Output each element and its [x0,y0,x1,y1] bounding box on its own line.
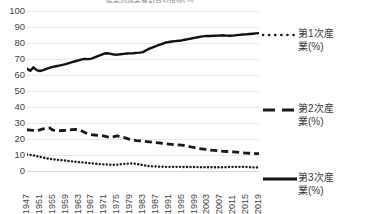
x-axis-tick-label: 1951 [35,194,44,214]
x-axis-tick-label: 1963 [74,194,83,214]
x-axis-tick-label: 1967 [86,194,95,214]
y-axis-tick-label: 20 [1,134,25,144]
x-axis: 1947195119551959196319671971197519791983… [27,173,259,214]
legend-label-tertiary-industry: 第3次産業(%) [298,172,362,197]
y-axis-tick-label: 10 [1,150,25,160]
y-axis-tick-label: 50 [1,86,25,96]
series-layer [27,11,259,171]
legend-label-primary-industry: 第1次産業(%) [298,28,362,53]
y-axis: 1009080706050403020100 [0,11,25,171]
y-axis-tick-label: 100 [1,6,25,16]
series-line-3 [27,33,259,71]
dashed-line-icon [262,104,298,116]
x-axis-tick-label: 1955 [48,194,57,214]
x-axis-tick-label: 2011 [228,195,237,214]
y-axis-tick-label: 40 [1,102,25,112]
x-axis-tick-label: 2015 [241,194,250,214]
series-line-1 [27,155,259,168]
legend-item-secondary-industry[interactable]: 第2次産業(%) [262,103,367,128]
x-axis-tick-label: 1971 [99,194,108,214]
y-axis-tick-label: 90 [1,22,25,32]
x-axis-tick-label: 1991 [164,194,173,214]
x-axis-line [27,171,259,172]
x-axis-tick-label: 1959 [61,194,70,214]
legend-item-tertiary-industry[interactable]: 第3次産業(%) [262,172,367,197]
series-line-2 [27,128,259,154]
chart-title: 産業別就業者割合の推移(%) [50,0,250,3]
legend-item-primary-industry[interactable]: 第1次産業(%) [262,28,367,53]
x-axis-tick-label: 1987 [151,194,160,214]
y-axis-tick-label: 0 [1,166,25,176]
dotted-line-icon [262,29,298,41]
y-axis-tick-label: 30 [1,118,25,128]
x-axis-tick-label: 1983 [138,194,147,214]
y-axis-tick-label: 80 [1,38,25,48]
x-axis-tick-label: 1975 [112,194,121,214]
x-axis-tick-label: 2003 [202,194,211,214]
x-axis-tick-label: 2007 [215,194,224,214]
solid-line-icon [262,173,298,185]
line-chart: 産業別就業者割合の推移(%) 1009080706050403020100 19… [0,0,367,214]
y-axis-tick-label: 70 [1,54,25,64]
x-axis-tick-label: 1947 [22,194,31,214]
chart-legend: 第1次産業(%) 第2次産業(%) 第3次産業(%) [262,0,367,214]
y-axis-tick-label: 60 [1,70,25,80]
x-axis-tick-label: 1999 [190,194,199,214]
legend-label-secondary-industry: 第2次産業(%) [298,103,362,128]
x-axis-tick-label: 1995 [177,194,186,214]
x-axis-tick-label: 1979 [125,194,134,214]
